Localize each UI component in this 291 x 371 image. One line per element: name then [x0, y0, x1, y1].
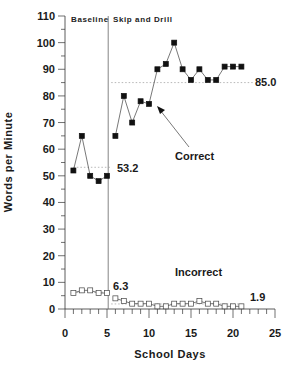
open-square-marker-icon: [214, 301, 219, 306]
filled-square-marker-icon: [71, 168, 76, 173]
filled-square-marker-icon: [79, 133, 84, 138]
series-label-correct: Correct: [175, 150, 214, 162]
y-tick-label: 30: [43, 223, 55, 235]
x-tick-label: 20: [227, 327, 239, 339]
filled-square-marker-icon: [105, 173, 110, 178]
filled-square-marker-icon: [180, 67, 185, 72]
filled-square-marker-icon: [197, 67, 202, 72]
open-square-marker-icon: [163, 304, 168, 309]
phase-label-baseline: Baseline: [71, 15, 109, 24]
x-tick-label: 10: [143, 327, 155, 339]
open-square-marker-icon: [172, 301, 177, 306]
filled-square-marker-icon: [147, 101, 152, 106]
arrowhead-icon: [157, 106, 165, 114]
y-tick-label: 110: [37, 10, 55, 22]
line-chart: 01020304050607080901001100510152025 Base…: [0, 0, 291, 371]
open-square-marker-icon: [113, 296, 118, 301]
y-tick-label: 50: [43, 170, 55, 182]
axes: 01020304050607080901001100510152025: [37, 10, 281, 339]
open-square-marker-icon: [88, 288, 93, 293]
x-tick-label: 25: [269, 327, 281, 339]
open-square-marker-icon: [79, 288, 84, 293]
y-tick-label: 90: [43, 63, 55, 75]
filled-square-marker-icon: [189, 77, 194, 82]
y-tick-label: 40: [43, 196, 55, 208]
y-tick-label: 100: [37, 37, 55, 49]
mean-label-baseline-correct: 53.2: [117, 162, 138, 174]
y-tick-label: 10: [43, 276, 55, 288]
open-square-marker-icon: [71, 291, 76, 296]
open-square-marker-icon: [138, 301, 143, 306]
filled-square-marker-icon: [88, 173, 93, 178]
filled-square-marker-icon: [222, 64, 227, 69]
x-axis-title: School Days: [134, 348, 206, 360]
open-square-marker-icon: [197, 299, 202, 304]
y-tick-label: 60: [43, 143, 55, 155]
phase-label-skip-and-drill: Skip and Drill: [113, 15, 173, 24]
x-tick-label: 0: [62, 327, 68, 339]
open-square-marker-icon: [121, 299, 126, 304]
filled-square-marker-icon: [113, 133, 118, 138]
y-tick-label: 80: [43, 90, 55, 102]
y-tick-label: 20: [43, 250, 55, 262]
x-tick-label: 5: [104, 327, 110, 339]
filled-square-marker-icon: [155, 67, 160, 72]
filled-square-marker-icon: [130, 120, 135, 125]
open-square-marker-icon: [189, 301, 194, 306]
y-axis-title: Words per Minute: [2, 112, 14, 213]
mean-label-skip-incorrect: 1.9: [250, 291, 265, 303]
filled-square-marker-icon: [231, 64, 236, 69]
filled-square-marker-icon: [214, 77, 219, 82]
y-tick-label: 0: [49, 303, 55, 315]
open-square-marker-icon: [205, 301, 210, 306]
open-square-marker-icon: [239, 304, 244, 309]
series-label-incorrect: Incorrect: [175, 266, 222, 278]
filled-square-marker-icon: [239, 64, 244, 69]
x-tick-label: 15: [185, 327, 197, 339]
open-square-marker-icon: [222, 304, 227, 309]
mean-label-skip-correct: 85.0: [255, 76, 276, 88]
open-square-marker-icon: [155, 304, 160, 309]
mean-label-baseline-incorrect: 6.3: [113, 280, 128, 292]
open-square-marker-icon: [96, 291, 101, 296]
open-square-marker-icon: [231, 304, 236, 309]
filled-square-marker-icon: [121, 93, 126, 98]
filled-square-marker-icon: [96, 179, 101, 184]
filled-square-marker-icon: [205, 77, 210, 82]
filled-square-marker-icon: [172, 40, 177, 45]
filled-square-marker-icon: [138, 99, 143, 104]
open-square-marker-icon: [130, 301, 135, 306]
open-square-marker-icon: [180, 301, 185, 306]
y-tick-label: 70: [43, 117, 55, 129]
filled-square-marker-icon: [163, 61, 168, 66]
arrow-line-icon: [160, 110, 189, 147]
mean-lines: [73, 83, 254, 304]
open-square-marker-icon: [105, 291, 110, 296]
open-square-marker-icon: [147, 301, 152, 306]
